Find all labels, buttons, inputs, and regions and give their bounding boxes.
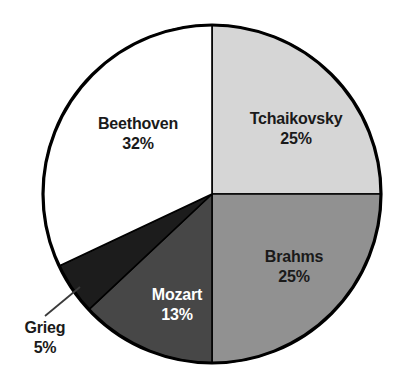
pie-label-beethoven-name: Beethoven <box>98 115 178 132</box>
pie-label-mozart-name: Mozart <box>152 286 202 303</box>
pie-label-mozart: Mozart 13% <box>121 285 233 325</box>
pie-label-mozart-value: 13% <box>121 305 233 325</box>
pie-label-grieg-name: Grieg <box>25 319 66 336</box>
pie-label-tchaikovsky: Tchaikovsky 25% <box>222 109 370 149</box>
pie-chart: Beethoven 32% Tchaikovsky 25% Brahms 25%… <box>0 0 397 387</box>
pie-label-brahms-value: 25% <box>233 267 355 287</box>
pie-label-tchaikovsky-value: 25% <box>222 129 370 149</box>
pie-label-grieg-value: 5% <box>2 338 88 358</box>
pie-label-tchaikovsky-name: Tchaikovsky <box>250 110 343 127</box>
pie-label-beethoven-value: 32% <box>63 134 213 154</box>
grieg-leader-line <box>45 287 80 316</box>
pie-label-brahms-name: Brahms <box>265 248 323 265</box>
pie-label-brahms: Brahms 25% <box>233 247 355 287</box>
pie-label-grieg: Grieg 5% <box>2 318 88 358</box>
pie-label-beethoven: Beethoven 32% <box>63 114 213 154</box>
